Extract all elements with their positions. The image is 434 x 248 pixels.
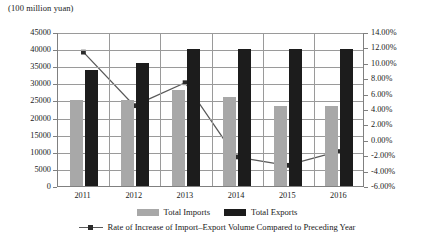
left-axis-tick-label: 40000 xyxy=(3,46,51,54)
left-axis-tickmark xyxy=(53,84,57,85)
legend-row-line: Rate of Increase of Import–Export Volume… xyxy=(0,220,434,235)
bar-imports xyxy=(172,90,185,186)
right-axis-tickmark xyxy=(364,141,368,142)
right-axis-tickmark xyxy=(364,156,368,157)
exports-swatch-icon xyxy=(224,209,246,216)
right-axis-tick-label: 0.00% xyxy=(371,137,421,145)
left-axis-tick-label: 35000 xyxy=(3,63,51,71)
right-axis-tick-label: -4.00% xyxy=(371,168,421,176)
right-axis-tick-label: -6.00% xyxy=(371,183,421,191)
legend-label-exports: Total Exports xyxy=(251,208,297,217)
left-axis-tickmark xyxy=(53,67,57,68)
legend-label-imports: Total Imports xyxy=(164,208,210,217)
left-axis-tick-label: 15000 xyxy=(3,132,51,140)
bar-imports xyxy=(325,106,338,186)
left-axis-tickmark xyxy=(53,50,57,51)
right-axis-tick-label: 10.00% xyxy=(371,60,421,68)
x-axis-tick-label: 2012 xyxy=(108,192,160,200)
left-axis-tickmark xyxy=(53,136,57,137)
left-axis-tick-label: 5000 xyxy=(3,166,51,174)
bar-imports xyxy=(70,100,83,186)
category-separator xyxy=(212,33,213,186)
bar-exports xyxy=(340,49,353,186)
gridline xyxy=(58,33,363,34)
gridline xyxy=(58,170,363,171)
chart-legend: Total Imports Total Exports Rate of Incr… xyxy=(0,205,434,235)
right-axis-tickmark xyxy=(364,187,368,188)
right-axis-tickmark xyxy=(364,79,368,80)
line-marker-icon xyxy=(79,224,103,232)
right-axis-tick-label: 8.00% xyxy=(371,75,421,83)
bar-imports xyxy=(223,97,236,186)
legend-label-rate: Rate of Increase of Import–Export Volume… xyxy=(108,223,356,232)
bar-exports xyxy=(238,49,251,186)
right-axis-tick-label: 4.00% xyxy=(371,106,421,114)
gridline xyxy=(58,67,363,68)
legend-item-exports: Total Exports xyxy=(224,208,297,217)
left-axis-tickmark xyxy=(53,101,57,102)
left-axis-tick-label: 30000 xyxy=(3,80,51,88)
bar-exports xyxy=(85,70,98,186)
left-axis-tickmark xyxy=(53,119,57,120)
right-axis-tick-label: 2.00% xyxy=(371,121,421,129)
bar-exports xyxy=(187,49,200,186)
right-axis-tick-label: -2.00% xyxy=(371,152,421,160)
gridline xyxy=(58,153,363,154)
gridline xyxy=(58,101,363,102)
right-axis-tickmark xyxy=(364,64,368,65)
right-axis-tick-label: 12.00% xyxy=(371,44,421,52)
left-axis-tickmark xyxy=(53,187,57,188)
chart-container: (100 million yuan) 450004000035000300002… xyxy=(0,0,434,248)
category-separator xyxy=(160,33,161,186)
rate-line-series xyxy=(58,33,363,186)
right-axis-tickmark xyxy=(364,48,368,49)
plot-area xyxy=(57,33,364,187)
imports-swatch-icon xyxy=(137,209,159,216)
left-axis-tick-label: 0 xyxy=(3,183,51,191)
category-separator xyxy=(314,33,315,186)
gridline xyxy=(58,119,363,120)
bar-exports xyxy=(136,63,149,186)
x-axis-tick-label: 2013 xyxy=(159,192,211,200)
x-axis-tick-label: 2014 xyxy=(210,192,262,200)
gridline xyxy=(58,50,363,51)
right-axis-tickmark xyxy=(364,110,368,111)
right-axis-tickmark xyxy=(364,172,368,173)
chart-unit-title: (100 million yuan) xyxy=(8,3,74,13)
right-axis-tick-label: 6.00% xyxy=(371,91,421,99)
category-separator xyxy=(263,33,264,186)
right-axis-tickmark xyxy=(364,33,368,34)
left-axis-tickmark xyxy=(53,33,57,34)
left-axis-tick-label: 10000 xyxy=(3,149,51,157)
right-axis-tick-label: 14.00% xyxy=(371,29,421,37)
legend-row-bars: Total Imports Total Exports xyxy=(0,205,434,220)
x-axis-tick-label: 2011 xyxy=(57,192,109,200)
legend-item-imports: Total Imports xyxy=(137,208,210,217)
bar-imports xyxy=(121,100,134,186)
left-axis-tickmark xyxy=(53,153,57,154)
x-axis-tick-label: 2015 xyxy=(261,192,313,200)
x-axis-tick-label: 2016 xyxy=(312,192,364,200)
gridline xyxy=(58,136,363,137)
left-axis-tickmark xyxy=(53,170,57,171)
category-separator xyxy=(109,33,110,186)
bar-exports xyxy=(289,49,302,186)
bar-imports xyxy=(274,106,287,186)
legend-item-rate: Rate of Increase of Import–Export Volume… xyxy=(79,223,356,232)
right-axis-tickmark xyxy=(364,95,368,96)
right-axis-tickmark xyxy=(364,125,368,126)
left-axis-tick-label: 25000 xyxy=(3,97,51,105)
left-axis-tick-label: 20000 xyxy=(3,115,51,123)
left-axis-tick-label: 45000 xyxy=(3,29,51,37)
gridline xyxy=(58,84,363,85)
